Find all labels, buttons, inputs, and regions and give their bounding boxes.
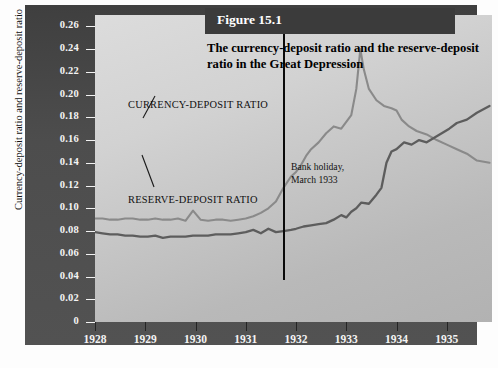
y-tick-label: 0.02 — [33, 292, 79, 303]
x-tick-mark — [196, 322, 197, 331]
y-tick-mark — [86, 117, 95, 118]
y-tick-mark — [86, 322, 95, 323]
figure-number-bar: Figure 15.1 — [205, 8, 455, 34]
bank-holiday-line2: March 1933 — [291, 174, 344, 187]
leader-line-reserve — [142, 155, 154, 187]
y-tick-label: 0.24 — [33, 42, 79, 53]
x-tick-label: 1934 — [377, 333, 417, 345]
x-tick-label: 1933 — [326, 333, 366, 345]
y-tick-mark — [86, 277, 95, 278]
figure-title-line1: The currency-deposit ratio and the reser… — [207, 40, 482, 56]
x-tick-label: 1931 — [226, 333, 266, 345]
y-tick-mark — [86, 299, 95, 300]
figure-title: The currency-deposit ratio and the reser… — [207, 40, 482, 73]
y-tick-label: 0.08 — [33, 224, 79, 235]
figure-title-line2: ratio in the Great Depression — [207, 56, 482, 72]
x-tick-label: 1932 — [276, 333, 316, 345]
x-tick-mark — [246, 322, 247, 331]
y-tick-mark — [86, 163, 95, 164]
annotation-currency-deposit-ratio: CURRENCY-DEPOSIT RATIO — [128, 99, 268, 110]
x-tick-mark — [95, 322, 96, 331]
y-axis-title: Currency-deposit ratio and reserve-depos… — [13, 0, 24, 225]
y-tick-label: 0.22 — [33, 65, 79, 76]
annotation-reserve-deposit-ratio: RESERVE-DEPOSIT RATIO — [128, 194, 258, 205]
y-tick-label: 0.10 — [33, 201, 79, 212]
y-tick-label: 0 — [33, 315, 79, 326]
y-tick-mark — [86, 49, 95, 50]
figure-number-label: Figure 15.1 — [217, 12, 282, 28]
y-tick-mark — [86, 231, 95, 232]
x-tick-label: 1928 — [75, 333, 115, 345]
y-tick-mark — [86, 26, 95, 27]
x-tick-mark — [145, 322, 146, 331]
y-tick-label: 0.26 — [33, 19, 79, 30]
y-tick-mark — [86, 95, 95, 96]
y-tick-mark — [86, 186, 95, 187]
x-tick-label: 1930 — [176, 333, 216, 345]
y-tick-label: 0.12 — [33, 179, 79, 190]
y-tick-mark — [86, 208, 95, 209]
x-tick-mark — [296, 322, 297, 331]
y-tick-label: 0.14 — [33, 156, 79, 167]
y-tick-label: 0.18 — [33, 110, 79, 121]
x-tick-mark — [346, 322, 347, 331]
figure-root: Currency-deposit ratio and reserve-depos… — [0, 0, 498, 368]
x-tick-label: 1935 — [427, 333, 467, 345]
bank-holiday-line1: Bank holiday, — [291, 161, 344, 174]
x-tick-label: 1929 — [125, 333, 165, 345]
y-tick-label: 0.20 — [33, 88, 79, 99]
x-tick-mark — [447, 322, 448, 331]
y-tick-mark — [86, 254, 95, 255]
y-tick-label: 0.16 — [33, 133, 79, 144]
y-tick-mark — [86, 72, 95, 73]
y-tick-mark — [86, 140, 95, 141]
y-tick-label: 0.04 — [33, 270, 79, 281]
annotation-bank-holiday: Bank holiday, March 1933 — [291, 161, 344, 187]
y-tick-label: 0.06 — [33, 247, 79, 258]
x-tick-mark — [397, 322, 398, 331]
